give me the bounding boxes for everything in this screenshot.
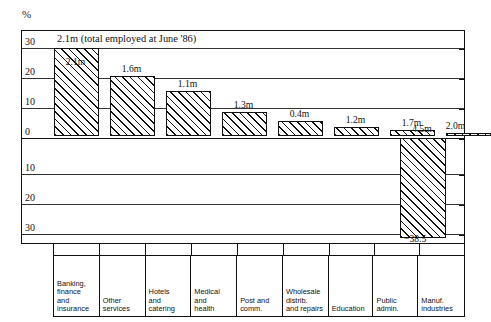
ytick-label-minus-10: 10 bbox=[25, 162, 35, 173]
category-label-education: Education bbox=[332, 305, 365, 314]
y-axis-unit-label: % bbox=[22, 8, 31, 20]
category-cell-hotels: Hotels and catering bbox=[146, 256, 192, 316]
bar-other-services[interactable] bbox=[110, 76, 155, 136]
bar-post-comm[interactable] bbox=[278, 121, 323, 136]
total-employed-annotation: 2.1m (total employed at June '86) bbox=[57, 33, 196, 44]
category-label-banking: Banking, finance and insurance bbox=[57, 280, 89, 314]
category-label-other-services: Other services bbox=[103, 297, 130, 314]
ytick-label-30: 30 bbox=[25, 36, 35, 47]
category-label-hotels: Hotels and catering bbox=[149, 288, 175, 314]
category-cell-banking: Banking, finance and insurance bbox=[54, 256, 100, 316]
category-cell-other-services: Other services bbox=[100, 256, 146, 316]
bar-manuf-industries[interactable] bbox=[400, 138, 446, 238]
category-cell-medical: Medical and health bbox=[191, 256, 237, 316]
bar-public-admin[interactable] bbox=[446, 133, 491, 136]
category-label-public-admin: Public admin. bbox=[376, 297, 398, 314]
bar-value-label-hotels: 1.1m bbox=[165, 78, 210, 89]
bar-value-label-other-services: 1.6m bbox=[109, 63, 154, 74]
bar-wholesale-distrib-repairs[interactable] bbox=[334, 127, 379, 136]
category-cell-education: Education bbox=[329, 256, 374, 316]
category-cell-wholesale: Wholesale distrib. and repairs bbox=[283, 256, 329, 316]
category-label-medical: Medical and health bbox=[194, 288, 219, 314]
bar-value-label-manuf: 4.5m bbox=[399, 123, 445, 134]
bar-medical-health[interactable] bbox=[222, 112, 267, 136]
ytick-label-minus-30: 30 bbox=[25, 222, 35, 233]
category-label-post: Post and comm. bbox=[240, 297, 269, 314]
ytick-label-minus-20: 20 bbox=[25, 192, 35, 203]
category-label-row: Banking, finance and insurance Other ser… bbox=[53, 255, 465, 317]
bar-hotels-catering[interactable] bbox=[166, 91, 211, 136]
bar-value-label-post: 0.4m bbox=[277, 108, 322, 119]
ytick-label-10: 10 bbox=[25, 96, 35, 107]
category-label-manuf: Manuf. industries bbox=[421, 297, 453, 314]
category-label-wholesale: Wholesale distrib. and repairs bbox=[286, 288, 323, 314]
category-cell-post: Post and comm. bbox=[237, 256, 283, 316]
ytick-label-20: 20 bbox=[25, 66, 35, 77]
bar-value-label-banking: 2.1m bbox=[53, 56, 98, 67]
bar-value-label-wholesale: 1.2m bbox=[333, 114, 378, 125]
ytick-label-0: 0 bbox=[25, 126, 30, 137]
bar-value-label-medical: 1.3m bbox=[221, 99, 266, 110]
category-cell-manuf: Manuf. industries bbox=[418, 256, 464, 316]
negative-bar-value: −38.5 bbox=[404, 233, 426, 244]
category-cell-public-admin: Public admin. bbox=[373, 256, 418, 316]
